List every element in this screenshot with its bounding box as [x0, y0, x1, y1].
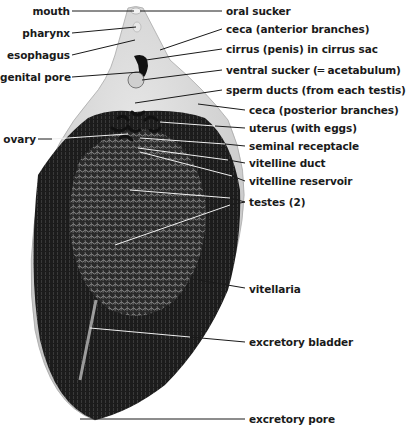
ventral-sucker	[128, 72, 144, 88]
label-excretory-pore: excretory pore	[249, 413, 335, 425]
label-excretory-bladder: excretory bladder	[249, 336, 353, 348]
label-uterus: uterus (with eggs)	[249, 122, 357, 134]
label-sperm-ducts: sperm ducts (from each testis)	[226, 84, 406, 96]
label-cirrus: cirrus (penis) in cirrus sac	[226, 43, 378, 55]
label-ceca-posterior: ceca (posterior branches)	[249, 104, 399, 116]
label-genital-pore: genital pore	[0, 71, 70, 83]
label-vitelline-reservoir: vitelline reservoir	[249, 175, 352, 187]
label-esophagus: esophagus	[0, 49, 70, 61]
label-oral-sucker: oral sucker	[226, 5, 291, 17]
label-testes: testes (2)	[249, 196, 305, 208]
label-vitelline-duct: vitelline duct	[249, 157, 325, 169]
label-ovary: ovary	[0, 133, 36, 145]
label-seminal-receptacle: seminal receptacle	[249, 140, 359, 152]
label-pharynx: pharynx	[8, 27, 70, 39]
label-ceca-anterior: ceca (anterior branches)	[226, 23, 369, 35]
label-mouth: mouth	[20, 5, 70, 17]
label-ventral-sucker: ventral sucker (═ acetabulum)	[226, 64, 401, 76]
label-vitellaria: vitellaria	[249, 283, 301, 295]
